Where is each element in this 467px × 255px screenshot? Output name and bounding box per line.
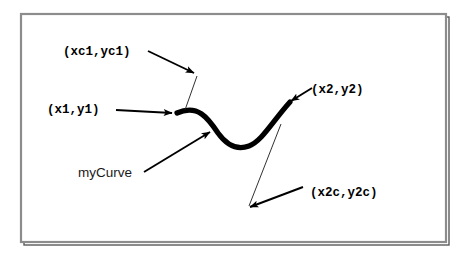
label-x2cy2c: (x2c,y2c) bbox=[310, 186, 378, 200]
label-x2y2: (x2,y2) bbox=[311, 83, 364, 97]
label-x1y1: (x1,y1) bbox=[47, 103, 100, 117]
label-mycurve: myCurve bbox=[78, 165, 132, 180]
label-xc1yc1: (xc1,yc1) bbox=[63, 45, 131, 59]
bezier-curve-figure: (xc1,yc1) (x1,y1) (x2,y2) myCurve (x2c,y… bbox=[0, 0, 467, 255]
diagram-canvas: (xc1,yc1) (x1,y1) (x2,y2) myCurve (x2c,y… bbox=[0, 0, 467, 255]
